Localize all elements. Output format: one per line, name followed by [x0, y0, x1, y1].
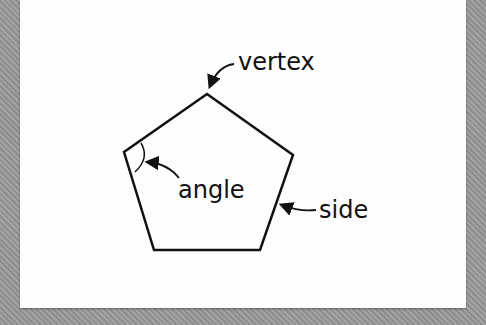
angle-label: angle: [178, 178, 245, 202]
pentagon-shape: [124, 94, 293, 250]
angle-arc: [135, 143, 144, 172]
angle-arrow: [148, 162, 179, 178]
side-label: side: [319, 198, 368, 222]
vertex-label: vertex: [238, 50, 315, 74]
side-arrow: [282, 205, 316, 210]
vertex-arrow: [210, 64, 234, 86]
